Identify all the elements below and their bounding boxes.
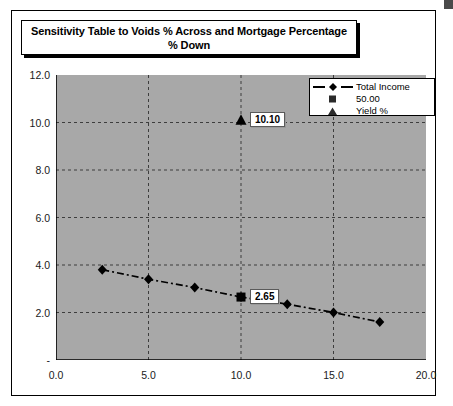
y-axis-tick-label: 6.0 [16, 213, 50, 223]
data-label: 2.65 [250, 289, 279, 304]
y-axis-tick-label: 12.0 [16, 70, 50, 80]
data-label: 10.10 [250, 112, 285, 127]
page-title: Sensitivity Table to Voids % Across and … [22, 24, 356, 52]
chart-legend: Total Income 50.00 Yield % [309, 78, 435, 116]
chart-canvas [56, 75, 426, 360]
y-axis-tick-label: 4.0 [16, 260, 50, 270]
x-axis-tick-label: 15.0 [314, 370, 354, 380]
corner-marker [444, 0, 453, 9]
legend-label-50: 50.00 [356, 93, 380, 104]
chart-title-box: Sensitivity Table to Voids % Across and … [21, 20, 357, 55]
x-axis-tick-label: 5.0 [129, 370, 169, 380]
legend-item-yield: Yield % [310, 105, 434, 116]
legend-label-yield: Yield % [356, 105, 388, 116]
x-axis-tick-label: 10.0 [221, 370, 261, 380]
diamond-line-icon [310, 82, 356, 92]
triangle-marker-icon [310, 106, 356, 116]
plot-container [56, 75, 426, 360]
y-axis-tick-label: 2.0 [16, 308, 50, 318]
plot-area [56, 75, 426, 360]
legend-item-total-income: Total Income [310, 81, 434, 92]
y-axis-tick-label: 8.0 [16, 165, 50, 175]
chart-frame: Sensitivity Table to Voids % Across and … [11, 10, 436, 396]
y-axis-tick-label: 10.0 [16, 118, 50, 128]
x-axis-tick-label: 0.0 [36, 370, 76, 380]
legend-item-50: 50.00 [310, 93, 434, 104]
legend-label-total-income: Total Income [356, 81, 410, 92]
square-marker-icon [310, 94, 356, 104]
y-axis-tick-label: - [16, 355, 50, 365]
x-axis-tick-label: 20.0 [406, 370, 446, 380]
